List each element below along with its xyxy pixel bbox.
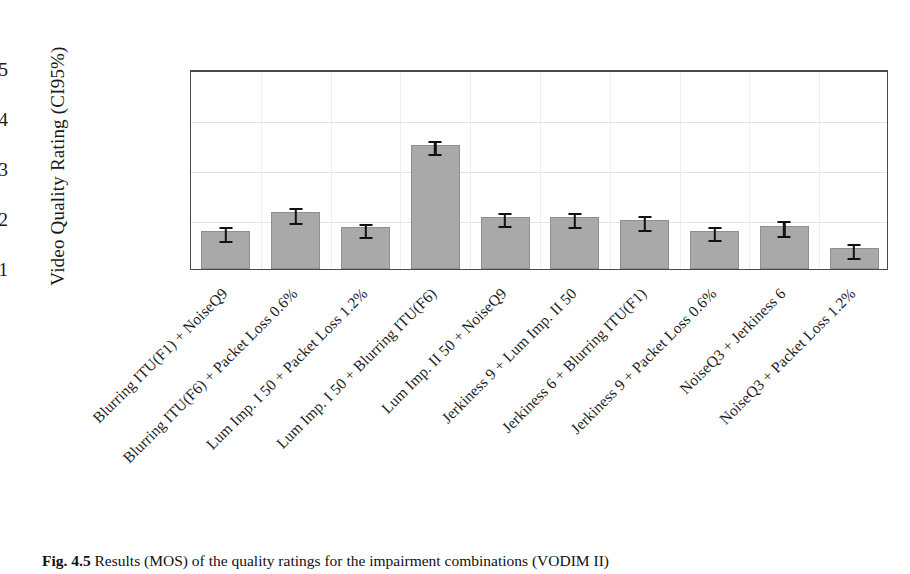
y-tick-label: 1 [0,259,8,281]
gridline-vertical [819,72,820,269]
error-cap-lower [359,237,372,239]
error-cap-upper [638,216,651,218]
gridline-vertical [400,72,401,269]
error-cap-lower [219,241,232,243]
figure-caption: Fig. 4.5 Results (MOS) of the quality ra… [42,551,882,571]
caption-text: Results (MOS) of the quality ratings for… [95,552,609,569]
error-cap-upper [778,221,791,223]
error-cap-lower [638,230,651,232]
error-cap-upper [359,224,372,226]
gridline-vertical [680,72,681,269]
gridline-horizontal [191,172,887,173]
gridline-vertical [470,72,471,269]
x-tick-label: Lum Imp. I 50 + Packet Loss 1.2% [0,285,371,574]
error-cap-upper [429,141,442,143]
gridline-horizontal [191,122,887,123]
y-tick-label: 5 [0,59,8,81]
x-tick-label: Lum Imp. II 50 + NoiseQ9 [73,285,510,574]
x-tick-label: Jerkiness 9 + Packet Loss 0.6% [283,285,720,574]
error-cap-lower [848,258,861,260]
error-cap-lower [429,154,442,156]
x-tick-label: NoiseQ3 + Jerkiness 6 [353,285,790,574]
error-cap-lower [568,227,581,229]
plot-area [190,70,888,270]
caption-figure-number: Fig. 4.5 [42,552,91,569]
gridline-vertical [610,72,611,269]
x-tick-label: NoiseQ3 + Packet Loss 1.2% [422,285,859,574]
error-cap-upper [289,208,302,210]
gridline-vertical [540,72,541,269]
bar [411,145,460,270]
x-tick-label: Jerkiness 6 + Blurring ITU(F1) [213,285,650,574]
gridline-vertical [331,72,332,269]
y-axis-title: Video Quality Rating (CI95%) [47,16,69,316]
error-cap-upper [568,213,581,215]
error-cap-lower [499,226,512,228]
x-tick-label: Blurring ITU(F6) + Packet Loss 0.6% [0,285,301,574]
error-cap-upper [848,244,861,246]
y-tick-label: 2 [0,209,8,231]
error-cap-upper [708,227,721,229]
x-tick-label: Lum Imp. I 50 + Blurring ITU(F6) [4,285,441,574]
gridline-vertical [749,72,750,269]
x-tick-label: Jerkiness 9 + Lum Imp. II 50 [143,285,580,574]
x-tick-label: Blurring ITU(F1) + NoiseQ9 [0,285,231,574]
y-tick-label: 4 [0,109,8,131]
gridline-vertical [261,72,262,269]
error-cap-upper [219,227,232,229]
error-cap-lower [778,236,791,238]
y-tick-label: 3 [0,159,8,181]
error-cap-lower [708,240,721,242]
error-cap-lower [289,223,302,225]
error-cap-upper [499,213,512,215]
